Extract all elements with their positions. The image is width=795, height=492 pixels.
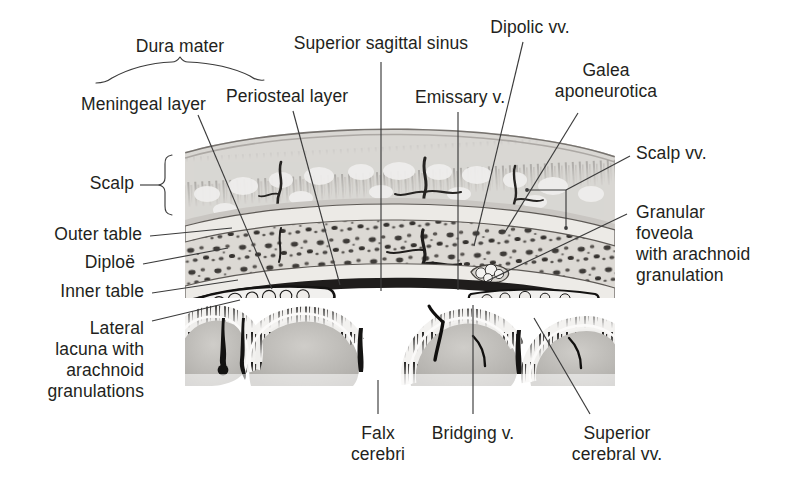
granular-foveola-leader: [487, 214, 627, 281]
meningeal-layer-leader: [198, 115, 272, 289]
label-falx-cerebri: Falx cerebri: [334, 423, 422, 465]
inner-table-leader: [152, 280, 238, 293]
periosteal-layer-leader: [293, 111, 340, 285]
label-inner-table: Inner table: [4, 281, 144, 302]
lateral-lacuna-leader: [152, 300, 240, 321]
label-scalp: Scalp: [10, 173, 134, 194]
scalp-veins-bracket: [527, 190, 566, 228]
galea-aponeurotica-leader: [505, 113, 578, 232]
label-lateral-lacuna: Lateral lacuna with arachnoid granulatio…: [2, 318, 144, 402]
label-meningeal-layer: Meningeal layer: [20, 94, 206, 115]
label-bridging-vein: Bridging v.: [413, 423, 533, 444]
label-periosteal-layer: Periosteal layer: [226, 86, 406, 107]
label-diploe: Diploë: [4, 252, 135, 273]
label-dipolic-veins: Dipolic vv.: [478, 17, 582, 38]
label-outer-table: Outer table: [4, 224, 142, 245]
label-dura-mater: Dura mater: [96, 36, 264, 57]
dura-mater-brace: [96, 57, 264, 83]
label-superior-cerebral-veins: Superior cerebral vv.: [538, 423, 696, 465]
label-scalp-veins: Scalp vv.: [636, 143, 766, 164]
scalp-brace: [159, 155, 172, 215]
scalp-veins-leader: [566, 156, 630, 190]
diploe-leader: [143, 248, 228, 264]
label-superior-sagittal-sinus: Superior sagittal sinus: [278, 33, 484, 54]
superior-cerebral-veins-leader: [534, 318, 590, 414]
label-galea-aponeurotica: Galea aponeurotica: [540, 60, 672, 102]
label-emissary-vein: Emissary v.: [398, 87, 522, 108]
label-granular-foveola: Granular foveola with arachnoid granulat…: [636, 202, 794, 286]
outer-table-leader: [150, 228, 232, 236]
figure-canvas: Dura mater Meningeal layer Periosteal la…: [0, 0, 795, 492]
